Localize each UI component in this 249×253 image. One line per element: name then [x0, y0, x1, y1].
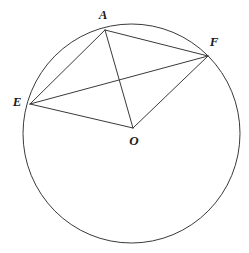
segment-EO — [30, 104, 133, 128]
segment-EA — [30, 30, 105, 104]
segment-AO — [105, 30, 133, 128]
point-label-A: A — [98, 7, 108, 22]
chords-and-radii-group — [30, 30, 208, 128]
point-label-O: O — [129, 133, 139, 148]
geometry-canvas: AFEO — [0, 0, 249, 253]
vertex-labels-group: AFEO — [12, 7, 219, 148]
point-label-F: F — [209, 34, 219, 49]
geometry-figure: AFEO — [0, 0, 249, 253]
segment-OF — [133, 56, 208, 128]
point-label-E: E — [12, 94, 22, 109]
